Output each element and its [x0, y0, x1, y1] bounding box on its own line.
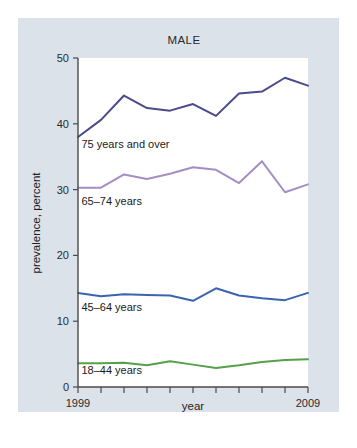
line-chart: MALE 01020304050 19992009 75 years and o…: [18, 18, 339, 412]
y-tick-label: 20: [57, 249, 69, 261]
y-tick-label: 40: [57, 118, 69, 130]
x-tick-label: 2009: [296, 397, 320, 409]
x-axis-title: year: [182, 400, 205, 412]
y-tick-label: 50: [57, 52, 69, 64]
series-label: 65–74 years: [81, 195, 142, 207]
y-axis-title: prevalence, percent: [30, 172, 42, 274]
x-tick-label: 1999: [66, 397, 90, 409]
y-tick-label: 30: [57, 184, 69, 196]
series-label: 75 years and over: [81, 138, 169, 150]
series-label: 45–64 years: [81, 301, 142, 313]
series-label: 18–44 years: [81, 364, 142, 376]
y-tick-label: 0: [63, 381, 69, 393]
y-tick-label: 10: [57, 315, 69, 327]
chart-figure: MALE 01020304050 19992009 75 years and o…: [18, 18, 339, 412]
panel-title: MALE: [168, 34, 201, 46]
